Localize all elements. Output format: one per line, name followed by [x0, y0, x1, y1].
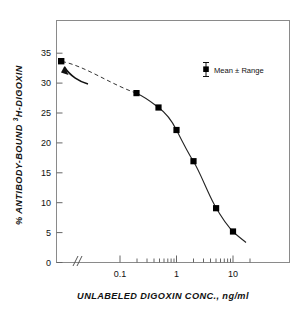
y-ticklabel-25: 25	[41, 108, 51, 118]
figure-container: 0 5 10 15 20 25 30 35	[0, 0, 307, 312]
data-point-0.2	[133, 90, 139, 96]
data-point-10	[230, 228, 236, 234]
data-point-zero-dose	[58, 58, 64, 64]
legend-label: Mean ± Range	[214, 66, 264, 75]
y-ticklabel-5: 5	[46, 228, 51, 238]
y-ticklabel-30: 30	[41, 78, 51, 88]
y-axis-title-pre: % ANTIBODY-BOUND	[14, 121, 24, 225]
x-axis-title: UNLABELED DIGOXIN CONC., ng/ml	[77, 291, 249, 301]
legend-marker-icon	[203, 66, 209, 72]
y-axis-title: % ANTIBODY-BOUND 3H-DIGOXIN	[12, 65, 24, 225]
y-ticklabel-15: 15	[41, 168, 51, 178]
data-point-0.5	[155, 104, 161, 110]
y-ticklabel-10: 10	[41, 198, 51, 208]
chart-svg: 0 5 10 15 20 25 30 35	[0, 0, 307, 312]
x-ticklabel-0.1: 0.1	[114, 269, 127, 279]
y-ticklabel-35: 35	[41, 48, 51, 58]
x-ticklabel-1: 1	[174, 269, 179, 279]
data-point-2	[190, 158, 196, 164]
y-ticklabel-0: 0	[46, 258, 51, 268]
data-point-1	[173, 127, 179, 133]
data-point-5	[213, 205, 219, 211]
x-ticklabel-10: 10	[228, 269, 238, 279]
y-ticklabel-20: 20	[41, 138, 51, 148]
y-axis-title-post: H-DIGOXIN	[14, 65, 24, 117]
